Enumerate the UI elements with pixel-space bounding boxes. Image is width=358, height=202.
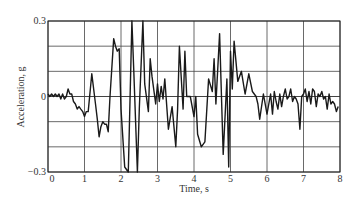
- x-tick-label: 1: [82, 173, 87, 184]
- acceleration-chart: 012345678 0.30−0.3 Time, s Acceleration,…: [0, 0, 358, 202]
- y-tick-label: −0.3: [28, 166, 46, 177]
- y-tick-label: 0: [41, 91, 46, 102]
- x-tick-label: 7: [301, 173, 306, 184]
- x-tick-label: 5: [228, 173, 233, 184]
- x-tick-label: 8: [338, 173, 343, 184]
- y-axis-title: Acceleration, g: [15, 66, 26, 127]
- x-tick-label: 2: [119, 173, 124, 184]
- y-tick-label: 0.3: [34, 15, 47, 26]
- y-tick-labels: 0.30−0.3: [28, 15, 46, 177]
- x-tick-label: 6: [265, 173, 270, 184]
- x-tick-label: 0: [50, 173, 55, 184]
- x-tick-label: 3: [155, 173, 160, 184]
- chart-grid: [48, 21, 340, 172]
- x-axis-title: Time, s: [179, 183, 209, 194]
